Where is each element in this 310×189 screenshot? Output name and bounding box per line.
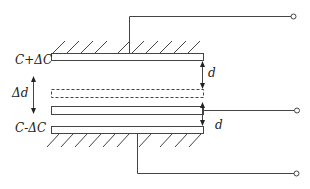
label-top-capacitance: C+ΔC [15, 53, 52, 67]
arrowhead-down-icon [200, 120, 205, 126]
arrowhead-up-icon [31, 76, 36, 82]
fixed-plate-top [52, 41, 204, 61]
differential-capacitor-diagram: C+ΔC Δd C-ΔC d d [0, 0, 310, 189]
wire-bottom [138, 134, 300, 176]
wire-top [130, 14, 297, 53]
terminal-bottom [294, 171, 299, 176]
hatch-bottom [47, 134, 201, 147]
arrowhead-down-icon [31, 108, 36, 114]
arrowhead-down-icon [200, 83, 205, 89]
label-gap-top: d [208, 66, 216, 80]
movable-plate-rest [52, 90, 204, 98]
hatch-top [53, 41, 200, 53]
movable-plate [52, 107, 204, 115]
wire-middle [203, 108, 300, 113]
label-gap-bottom: d [215, 118, 223, 132]
label-bottom-capacitance: C-ΔC [15, 121, 46, 135]
terminal-middle [295, 108, 300, 113]
arrowhead-up-icon [200, 61, 205, 67]
arrowhead-up-icon [200, 102, 205, 108]
fixed-plate-bottom [47, 127, 204, 148]
label-displacement: Δd [11, 86, 29, 100]
terminal-top [291, 14, 296, 19]
